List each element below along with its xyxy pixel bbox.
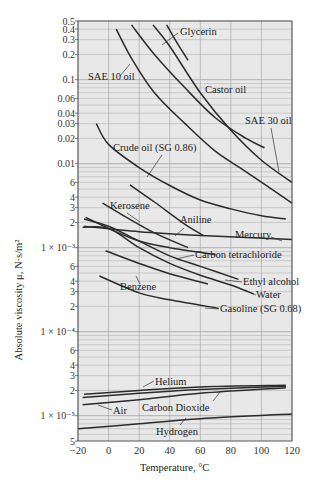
label-carbon-tetrachloride: Carbon tetrachloride bbox=[195, 249, 282, 260]
label-air: Air bbox=[113, 405, 128, 416]
y-tick-label: 0.04 bbox=[58, 108, 76, 119]
label-sae-10-oil: SAE 10 oil bbox=[88, 71, 135, 82]
y-tick-label: 0.03 bbox=[58, 118, 76, 129]
y-axis-label: Absolute viscosity μ, N·s/m² bbox=[8, 175, 28, 425]
y-tick-label: 0.02 bbox=[58, 133, 76, 144]
y-tick-label: 0.4 bbox=[63, 24, 76, 35]
label-kerosene: Kerosene bbox=[110, 200, 150, 211]
x-tick-label: 100 bbox=[254, 445, 270, 456]
y-tick-label: 0.06 bbox=[58, 93, 76, 104]
label-helium: Helium bbox=[155, 376, 187, 387]
label-ethyl-alcohol: Ethyl alcohol bbox=[243, 276, 299, 287]
label-gasoline-sg-0-68: Gasoline (SG 0.68) bbox=[220, 303, 302, 315]
viscosity-chart: GlycerinSAE 10 oilCastor oilSAE 30 oilCr… bbox=[0, 0, 315, 494]
label-benzene: Benzene bbox=[120, 281, 156, 292]
y-tick-label: 0.01 bbox=[58, 158, 76, 169]
y-tick-label: 6 bbox=[70, 261, 75, 272]
y-tick-label: 4 bbox=[70, 192, 75, 203]
y-tick-label: 1 × 10⁻⁵ bbox=[41, 410, 75, 421]
label-glycerin: Glycerin bbox=[180, 26, 217, 37]
label-carbon-dioxide: Carbon Dioxide bbox=[142, 402, 210, 413]
x-tick-label: 80 bbox=[226, 445, 237, 456]
label-crude-oil-sg-0-86: Crude oil (SG 0.86) bbox=[113, 142, 197, 154]
y-tick-label: 0.3 bbox=[63, 34, 76, 45]
x-tick-label: 60 bbox=[195, 445, 206, 456]
label-water: Water bbox=[256, 289, 281, 300]
x-tick-label: 40 bbox=[164, 445, 175, 456]
y-tick-label: 4 bbox=[70, 360, 75, 371]
y-tick-label: 6 bbox=[70, 177, 75, 188]
y-tick-label: 3 bbox=[70, 202, 75, 213]
y-tick-label: 3 bbox=[70, 286, 75, 297]
x-tick-label: 20 bbox=[134, 445, 145, 456]
label-castor-oil: Castor oil bbox=[205, 84, 246, 95]
y-tick-label: 6 bbox=[70, 345, 75, 356]
y-axis-ticks: 0.50.40.30.20.10.060.040.030.020.0164321… bbox=[41, 16, 78, 447]
x-tick-label: −20 bbox=[70, 445, 86, 456]
y-tick-label: 1 × 10⁻⁴ bbox=[41, 326, 76, 337]
y-tick-label: 2 bbox=[70, 385, 75, 396]
x-axis-label: Temperature, °C bbox=[140, 462, 209, 473]
x-tick-label: 0 bbox=[106, 445, 111, 456]
y-tick-label: 4 bbox=[70, 276, 75, 287]
y-tick-label: 0.1 bbox=[63, 74, 76, 85]
y-tick-label: 1 × 10⁻³ bbox=[41, 242, 75, 253]
y-tick-label: 3 bbox=[70, 370, 75, 381]
label-hydrogen: Hydrogen bbox=[156, 426, 199, 437]
x-tick-label: 120 bbox=[284, 445, 300, 456]
y-tick-label: 2 bbox=[70, 217, 75, 228]
label-mercury: Mercury bbox=[235, 229, 272, 240]
y-tick-label: 2 bbox=[70, 301, 75, 312]
label-sae-30-oil: SAE 30 oil bbox=[245, 115, 292, 126]
y-tick-label: 0.2 bbox=[63, 49, 76, 60]
x-axis-ticks: −20020406080100120 bbox=[70, 445, 300, 456]
label-aniline: Aniline bbox=[180, 214, 212, 225]
